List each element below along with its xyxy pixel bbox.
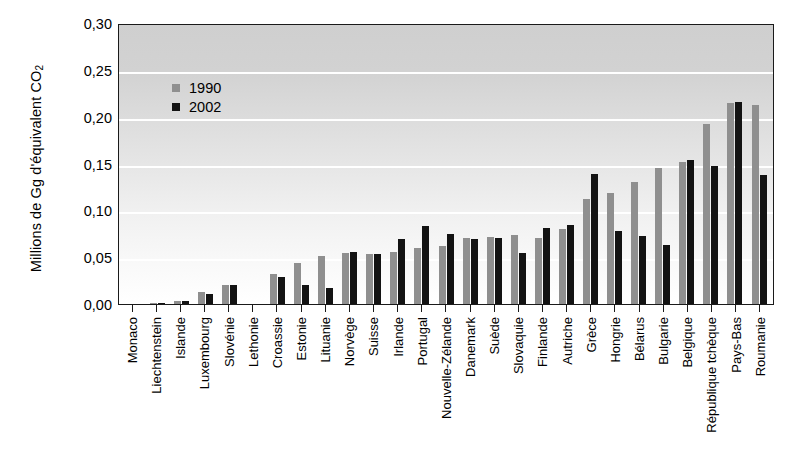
bar-2002 (278, 277, 285, 304)
x-axis-tick (590, 305, 591, 312)
bar-1990 (535, 238, 542, 305)
bar-1990 (752, 105, 759, 305)
bar-2002 (519, 253, 526, 304)
x-axis-tick-wrap (724, 305, 748, 312)
bar-group (290, 25, 314, 304)
y-axis-tick-label: 0,05 (66, 251, 112, 266)
x-axis-tick-wrap (434, 305, 458, 312)
x-axis-tick-labels: MonacoLiechtensteinIslandeLuxembourgSlov… (118, 313, 774, 465)
x-axis-label-wrap: Irlande (386, 313, 410, 465)
x-axis-tick (156, 305, 157, 312)
bar-group (217, 25, 241, 304)
x-axis-label-wrap: Suède (482, 313, 506, 465)
x-axis-label-wrap: Croassie (265, 313, 289, 465)
bar-2002 (350, 252, 357, 304)
bar-2002 (206, 294, 213, 304)
x-axis-label-wrap: Autriche (555, 313, 579, 465)
bar-group (362, 25, 386, 304)
x-axis-label-wrap: Roumanie (748, 313, 772, 465)
bar-group (578, 25, 602, 304)
bar-2002 (760, 175, 767, 304)
bar-1990 (198, 292, 205, 304)
x-axis-tick (470, 305, 471, 312)
legend-label-1990: 1990 (189, 80, 221, 96)
x-axis-tick (325, 305, 326, 312)
bar-1990 (366, 254, 373, 304)
x-axis-tick (421, 305, 422, 312)
x-axis-tick (397, 305, 398, 312)
x-axis-tick-label: Irlande (391, 317, 404, 357)
x-axis-tick-label: Islande (174, 317, 187, 359)
legend-label-2002: 2002 (189, 99, 221, 115)
bar-1990 (318, 256, 325, 304)
bar-group (145, 25, 169, 304)
x-axis-tick-label: Norvège (343, 317, 356, 366)
bar-2002 (374, 254, 381, 304)
bar-1990 (511, 235, 518, 304)
bar-1990 (559, 229, 566, 304)
x-axis-tick (518, 305, 519, 312)
x-axis-tick-label: Suisse (367, 317, 380, 356)
bar-2002 (615, 231, 622, 304)
bar-1990 (631, 182, 638, 304)
x-axis-tick (349, 305, 350, 312)
x-axis-tick (711, 305, 712, 312)
bar-group (554, 25, 578, 304)
bar-1990 (583, 199, 590, 304)
bar-1990 (414, 248, 421, 304)
x-axis-label-wrap: Portugal (410, 313, 434, 465)
x-axis-tick-label: Luxembourg (198, 317, 211, 389)
x-axis-tick-wrap (313, 305, 337, 312)
bar-2002 (711, 166, 718, 304)
bar-2002 (471, 239, 478, 304)
bar-group (386, 25, 410, 304)
bar-group (410, 25, 434, 304)
x-axis-tick-wrap (168, 305, 192, 312)
x-axis-tick-label: Croassie (270, 317, 283, 368)
x-axis-tick-label: Liechtenstein (150, 317, 163, 394)
x-axis-tick-wrap (192, 305, 216, 312)
bar-1990 (679, 162, 686, 304)
x-axis-label-wrap: Norvège (337, 313, 361, 465)
x-axis-tick (204, 305, 205, 312)
bar-1990 (439, 246, 446, 304)
x-axis-tick-wrap (603, 305, 627, 312)
bar-group (627, 25, 651, 304)
x-axis-label-wrap: Finlande (530, 313, 554, 465)
x-axis-tick-wrap (699, 305, 723, 312)
bar-chart: Millions de Gg d'équivalent CO2 0,300,25… (0, 0, 795, 468)
bar-2002 (735, 102, 742, 304)
x-axis-tick-label: Portugal (415, 317, 428, 365)
bar-2002 (543, 228, 550, 304)
x-axis-tick-label: Danemark (464, 317, 477, 377)
bar-2002 (663, 245, 670, 304)
x-axis-tick (542, 305, 543, 312)
x-axis-tick-label: Lituanie (319, 317, 332, 363)
bar-group (338, 25, 362, 304)
x-axis-ticks (118, 305, 774, 312)
x-axis-label-wrap: Luxembourg (192, 313, 216, 465)
bar-1990 (463, 238, 470, 304)
x-axis-tick-wrap (386, 305, 410, 312)
x-axis-tick-label: République tchèque (705, 317, 718, 433)
x-axis-tick-wrap (265, 305, 289, 312)
x-axis-label-wrap: Suisse (361, 313, 385, 465)
y-axis-tick-label: 0,25 (66, 64, 112, 79)
y-axis-tick-label: 0,10 (66, 204, 112, 219)
x-axis-tick (252, 305, 253, 312)
x-axis-tick-wrap (289, 305, 313, 312)
x-axis-label-wrap: Lituanie (313, 313, 337, 465)
x-axis-label-wrap: Nouvelle-Zélande (434, 313, 458, 465)
x-axis-tick (445, 305, 446, 312)
x-axis-tick-wrap (482, 305, 506, 312)
x-axis-tick (759, 305, 760, 312)
bar-1990 (174, 301, 181, 304)
x-axis-tick-label: Estonie (295, 317, 308, 360)
x-axis-tick-label: Suède (488, 317, 501, 355)
x-axis-tick-label: Hongrie (608, 317, 621, 363)
bar-2002 (326, 288, 333, 304)
bar-2002 (158, 303, 165, 304)
x-axis-tick-label: Slovénie (222, 317, 235, 367)
y-axis-tick-label: 0,00 (66, 298, 112, 313)
bar-group (241, 25, 265, 304)
